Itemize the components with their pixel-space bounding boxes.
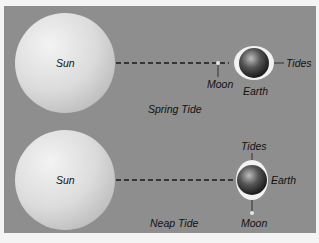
moon	[250, 211, 254, 215]
neap-tide-caption: Neap Tide	[150, 217, 199, 229]
tides-label: Tides	[241, 140, 267, 152]
earth	[239, 48, 269, 78]
tides-diagram: Sun Moon Earth Tides Spring Tide Sun Tid…	[0, 0, 319, 243]
sun-label: Sun	[56, 57, 75, 69]
earth	[237, 165, 267, 195]
spring-tide-panel: Sun Moon Earth Tides Spring Tide	[15, 13, 312, 115]
moon-label: Moon	[241, 217, 267, 229]
moon	[216, 61, 220, 65]
earth-label: Earth	[243, 85, 268, 97]
neap-tide-panel: Sun Tides Earth Moon Neap Tide	[15, 130, 296, 230]
earth-label: Earth	[271, 174, 296, 186]
moon-label: Moon	[207, 78, 233, 90]
tides-label: Tides	[286, 57, 312, 69]
spring-tide-caption: Spring Tide	[148, 103, 202, 115]
sun-label: Sun	[56, 174, 75, 186]
